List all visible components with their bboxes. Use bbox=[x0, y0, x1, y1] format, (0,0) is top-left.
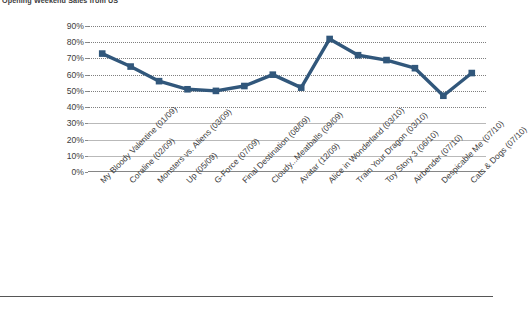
data-point-marker: Coraline (02/09): 65% bbox=[127, 63, 134, 70]
data-point-marker: G-Force (07/09): 50% bbox=[213, 88, 220, 95]
data-point-marker: Up (05/09): 51% bbox=[184, 86, 191, 93]
y-axis-tick-label: 70% bbox=[38, 53, 84, 63]
line-series: My Bloody Valentine (01/09): 73%Coraline… bbox=[88, 26, 486, 172]
footer-rule bbox=[0, 296, 493, 297]
data-point-marker: Toy Story 3 (06/10): 69% bbox=[383, 57, 390, 64]
y-axis-tick-label: 60% bbox=[38, 70, 84, 80]
data-point-marker: Avatar (12/09): 52% bbox=[298, 84, 305, 91]
data-point-marker: Airbender (07/10): 64% bbox=[412, 65, 419, 72]
plot-area: My Bloody Valentine (01/09): 73%Coraline… bbox=[88, 26, 486, 172]
y-axis-tick-label: 20% bbox=[38, 135, 84, 145]
data-point-marker: Cats & Dogs (07/10): 61% bbox=[468, 70, 475, 77]
data-point-marker: Cloudy...Meatballs (09/09): 60% bbox=[269, 71, 276, 78]
y-axis-tick-label: 80% bbox=[38, 37, 84, 47]
y-axis-tick-label: 10% bbox=[38, 151, 84, 161]
chart-title: Opening Weekend Sales from US bbox=[2, 0, 118, 5]
y-axis-tick-label: 0% bbox=[38, 167, 84, 177]
data-point-marker: Final Destination (08/09): 53% bbox=[241, 83, 248, 90]
data-point-marker: Alice in Wonderland (03/10): 82% bbox=[326, 36, 333, 43]
data-point-marker: Despicable Me (07/10): 47% bbox=[440, 92, 447, 99]
y-tick-mark bbox=[85, 172, 88, 173]
y-axis-tick-label: 40% bbox=[38, 102, 84, 112]
y-axis-tick-label: 30% bbox=[38, 118, 84, 128]
y-axis-tick-label: 90% bbox=[38, 21, 84, 31]
data-point-marker: Monsters vs. Aliens (03/09): 56% bbox=[156, 78, 163, 85]
y-axis-tick-label: 50% bbox=[38, 86, 84, 96]
data-point-marker: My Bloody Valentine (01/09): 73% bbox=[99, 50, 106, 57]
series-markers: My Bloody Valentine (01/09): 73%Coraline… bbox=[99, 36, 475, 99]
data-point-marker: Train Your Dragon (03/10): 72% bbox=[355, 52, 362, 59]
